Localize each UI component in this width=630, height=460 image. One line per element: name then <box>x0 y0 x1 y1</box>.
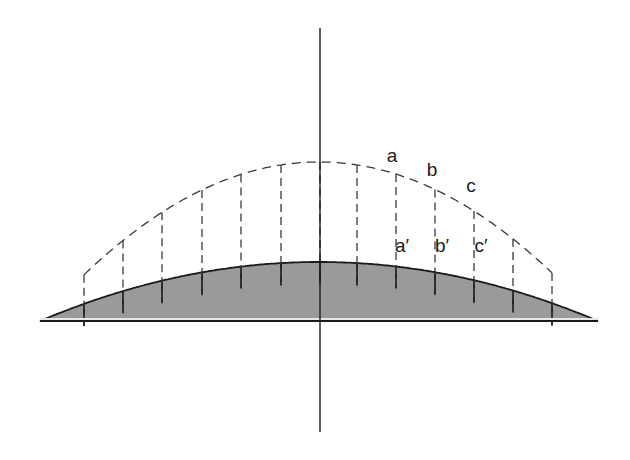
canvas-background <box>0 0 630 460</box>
arch-diagram-svg: abca′b′c′ <box>0 0 630 460</box>
label-lower-2: c′ <box>474 235 488 256</box>
label-lower-1: b′ <box>435 235 450 256</box>
label-lower-0: a′ <box>395 235 410 256</box>
label-upper-0: a <box>387 145 398 166</box>
figure-root: abca′b′c′ <box>0 0 630 460</box>
label-upper-2: c <box>466 175 476 196</box>
label-upper-1: b <box>427 159 438 180</box>
